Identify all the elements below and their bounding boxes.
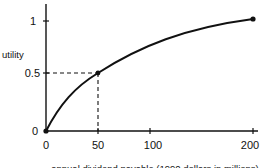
utility-curve <box>46 19 253 131</box>
y-axis-label: utility <box>2 49 24 60</box>
x-tick-label-100: 100 <box>144 139 162 151</box>
utility-chart: 1 0.5 0 utility 0 50 100 200 annual divi… <box>0 0 263 168</box>
y-tick-label-0.5: 0.5 <box>25 67 40 79</box>
point-origin <box>43 128 48 133</box>
x-tick-label-200: 200 <box>241 139 259 151</box>
point-50 <box>96 71 101 76</box>
y-tick-label-0: 0 <box>32 125 38 137</box>
x-tick-label-50: 50 <box>92 139 104 151</box>
point-200 <box>250 16 255 21</box>
y-tick-label-1: 1 <box>30 15 36 27</box>
x-tick-label-0: 0 <box>43 139 49 151</box>
x-axis-label: annual dividend payable (1990 dollars in… <box>51 163 259 168</box>
